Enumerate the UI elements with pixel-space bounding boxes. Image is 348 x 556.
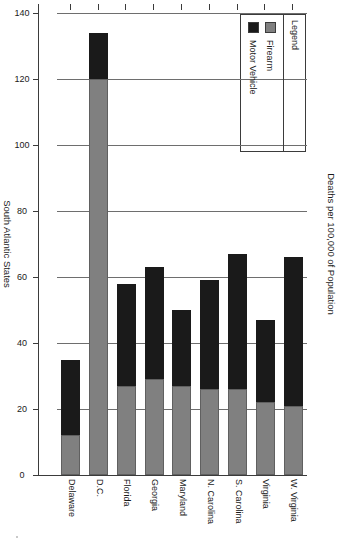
bar-group <box>117 0 136 556</box>
bar-segment-motor-vehicle <box>173 310 192 386</box>
legend-divider <box>283 14 284 152</box>
bar-segment-motor-vehicle <box>145 267 164 379</box>
bar-segment-motor-vehicle <box>117 284 136 386</box>
category-axis-tick <box>237 4 238 10</box>
legend-swatch-firearm <box>265 22 276 33</box>
bar-segment-motor-vehicle <box>61 360 80 436</box>
category-label-delaware: Delaware <box>67 479 77 549</box>
category-axis-tick <box>209 4 210 10</box>
category-axis-tick <box>264 4 265 10</box>
bar-segment-motor-vehicle <box>284 257 303 406</box>
category-axis-tick <box>70 4 71 10</box>
legend-label-motor-vehicle: Motor Vehicle <box>248 40 258 95</box>
bar-group <box>284 0 303 556</box>
value-axis-tick-label: 0 <box>10 470 34 480</box>
category-axis-tick <box>125 4 126 10</box>
value-axis-tick-label: 80 <box>10 206 34 216</box>
category-label-florida: Florida <box>122 479 132 549</box>
category-label-w-virginia: W. Virginia <box>289 479 299 549</box>
bar-segment-motor-vehicle <box>200 280 219 389</box>
category-label-virginia: Virginia <box>261 479 271 549</box>
value-axis-title: Deaths per 100,000 of Population <box>326 154 337 334</box>
value-axis-tick-label: 60 <box>10 272 34 282</box>
legend-swatch-motor-vehicle <box>248 22 259 33</box>
bar-segment-firearm <box>200 389 219 475</box>
bar-group <box>173 0 192 556</box>
bar-segment-motor-vehicle <box>89 33 108 79</box>
bar-group <box>61 0 80 556</box>
category-axis-tick <box>98 4 99 10</box>
bar-segment-firearm <box>228 389 247 475</box>
category-axis-line <box>38 4 39 475</box>
bar-segment-firearm <box>173 386 192 475</box>
value-axis-tick-label: 100 <box>10 140 34 150</box>
legend-label-firearm: Firearm <box>265 40 275 71</box>
value-axis-tick-label: 20 <box>10 404 34 414</box>
bar-segment-firearm <box>145 379 164 475</box>
bar-segment-firearm <box>284 406 303 475</box>
category-axis-tick <box>292 4 293 10</box>
bar-segment-firearm <box>117 386 136 475</box>
category-label-georgia: Georgia <box>150 479 160 549</box>
category-label-s-carolina: S. Carolina <box>234 479 244 549</box>
legend-title: Legend <box>290 20 300 50</box>
value-axis-tick-label: 40 <box>10 338 34 348</box>
bar-group <box>200 0 219 556</box>
bar-segment-motor-vehicle <box>256 320 275 403</box>
category-axis-tick <box>153 4 154 10</box>
chart-canvas: South Atlantic States Deaths per 100,000… <box>0 0 348 556</box>
bar-group <box>256 0 275 556</box>
category-axis-title: South Atlantic States <box>2 184 13 304</box>
bar-segment-firearm <box>89 79 108 475</box>
bar-segment-firearm <box>61 435 80 475</box>
category-label-n-carolina: N. Carolina <box>206 479 216 549</box>
page-speck <box>16 536 18 538</box>
bar-group <box>89 0 108 556</box>
category-label-maryland: Maryland <box>178 479 188 549</box>
bar-group <box>228 0 247 556</box>
value-axis-tick-label: 140 <box>10 8 34 18</box>
category-label-d-c: D.C. <box>95 479 105 549</box>
bar-segment-firearm <box>256 402 275 475</box>
value-axis-tick-label: 120 <box>10 74 34 84</box>
bar-segment-motor-vehicle <box>228 254 247 389</box>
bar-group <box>145 0 164 556</box>
category-axis-tick <box>181 4 182 10</box>
